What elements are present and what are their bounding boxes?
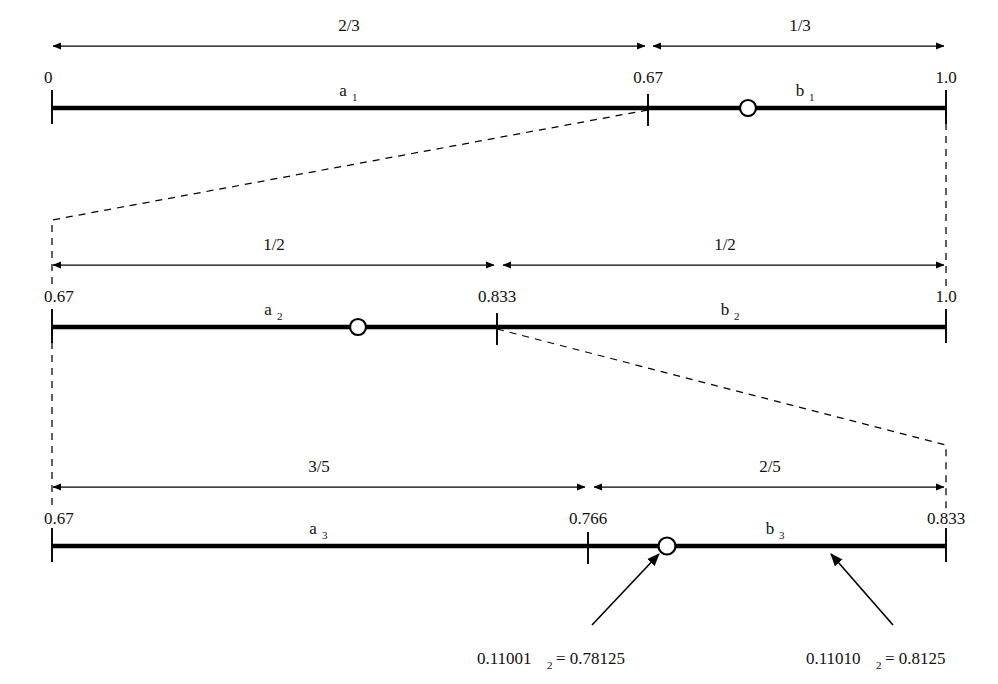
row3-left-label: 0.67 bbox=[44, 509, 74, 528]
connector-diagonal-right-2 bbox=[497, 329, 946, 512]
svg-text:1: 1 bbox=[809, 91, 815, 103]
diagram-canvas: 2/3 1/3 0 0.67 1.0 a 1 b 1 bbox=[0, 0, 998, 684]
annotation-left: 0.11001 2 = 0.78125 bbox=[477, 649, 625, 671]
row1-right-segment-label: b 1 bbox=[796, 81, 815, 103]
row1-left-segment-label: a 1 bbox=[339, 81, 357, 103]
svg-text:b: b bbox=[766, 519, 775, 538]
annotation-right: 0.11010 2 = 0.8125 bbox=[806, 649, 946, 671]
row2-right-fraction: 1/2 bbox=[714, 235, 736, 254]
annotation-pointers bbox=[592, 554, 893, 625]
svg-text:1: 1 bbox=[352, 91, 358, 103]
row1-left-label: 0 bbox=[44, 68, 53, 87]
svg-text:a: a bbox=[309, 519, 317, 538]
svg-text:b: b bbox=[796, 81, 805, 100]
connector-diagonal-left bbox=[52, 110, 648, 290]
row3-right-fraction: 2/5 bbox=[759, 457, 781, 476]
row1-group: 2/3 1/3 0 0.67 1.0 a 1 b 1 bbox=[44, 16, 957, 126]
row2-right-segment-label: b 2 bbox=[721, 300, 740, 322]
svg-text:3: 3 bbox=[322, 529, 328, 541]
row3-left-segment-label: a 3 bbox=[309, 519, 328, 541]
row3-split-label: 0.766 bbox=[569, 509, 607, 528]
svg-text:a: a bbox=[339, 81, 347, 100]
annotation-left-base: 2 bbox=[547, 659, 553, 671]
svg-text:b: b bbox=[721, 300, 730, 319]
svg-text:2: 2 bbox=[277, 310, 283, 322]
svg-text:2: 2 bbox=[734, 310, 740, 322]
row3-marker-circle bbox=[659, 538, 676, 555]
row2-right-label: 1.0 bbox=[935, 287, 956, 306]
row3-left-fraction: 3/5 bbox=[308, 457, 330, 476]
annotation-right-binary: 0.11010 bbox=[806, 649, 861, 668]
row3-right-segment-label: b 3 bbox=[766, 519, 785, 541]
annotation-left-pointer bbox=[592, 554, 659, 625]
row1-left-fraction: 2/3 bbox=[338, 16, 360, 35]
row3-group: 3/5 2/5 0.67 0.766 0.833 a 3 b 3 bbox=[44, 457, 965, 564]
row2-left-fraction: 1/2 bbox=[263, 235, 285, 254]
annotation-right-equals: = 0.8125 bbox=[885, 649, 946, 668]
annotation-left-equals: = 0.78125 bbox=[556, 649, 625, 668]
connector-row2-to-row3 bbox=[52, 329, 946, 512]
row2-left-label: 0.67 bbox=[44, 287, 74, 306]
annotation-right-base: 2 bbox=[876, 659, 882, 671]
svg-text:3: 3 bbox=[779, 529, 785, 541]
row1-marker-circle bbox=[740, 100, 756, 116]
row1-right-fraction: 1/3 bbox=[789, 16, 811, 35]
interval-subdivision-svg: 2/3 1/3 0 0.67 1.0 a 1 b 1 bbox=[0, 0, 998, 684]
row1-right-label: 1.0 bbox=[935, 68, 956, 87]
row3-right-label: 0.833 bbox=[927, 509, 965, 528]
row2-group: 1/2 1/2 0.67 0.833 1.0 a 2 b 2 bbox=[44, 235, 957, 345]
row2-marker-circle bbox=[350, 319, 366, 335]
svg-text:a: a bbox=[264, 300, 272, 319]
row2-split-label: 0.833 bbox=[478, 287, 516, 306]
row1-split-label: 0.67 bbox=[633, 68, 663, 87]
annotation-left-binary: 0.11001 bbox=[477, 649, 532, 668]
row2-left-segment-label: a 2 bbox=[264, 300, 282, 322]
annotation-right-pointer bbox=[831, 554, 893, 625]
